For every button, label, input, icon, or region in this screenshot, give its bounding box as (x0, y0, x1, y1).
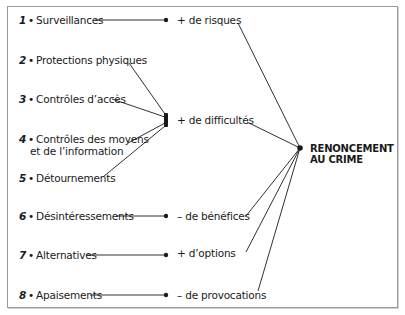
effect-difficultes: + de difficultés (177, 114, 254, 126)
technique-label: Apaisements (36, 289, 102, 301)
goal-label: RENONCEMENT AU CRIME (310, 143, 394, 165)
bullet: • (28, 210, 34, 222)
bullet: • (28, 93, 34, 105)
technique-label: Contrôles des moyens (36, 133, 149, 145)
technique-2: 2•Protections physiques (19, 54, 147, 66)
effect-connector-4 (246, 148, 300, 252)
effect-benefices: – de bénéfices (177, 210, 250, 222)
bullet: • (28, 133, 34, 145)
effect-connector-5 (258, 148, 300, 291)
bullet: • (28, 289, 34, 301)
technique-3: 3•Contrôles d’accès (19, 93, 126, 105)
effect-connector-2 (247, 122, 300, 148)
technique-6: 6•Désintéressements (19, 210, 134, 222)
technique-7: 7•Alternatives (19, 249, 97, 261)
technique-label: Surveillances (36, 14, 103, 26)
technique-label: Contrôles d’accès (36, 93, 126, 105)
technique-4-line2: et de l’information (30, 145, 123, 157)
goal-line-2: AU CRIME (310, 154, 394, 165)
technique-label: Protections physiques (36, 54, 147, 66)
dot-7 (164, 253, 168, 257)
dot-1 (164, 18, 168, 22)
technique-label: et de l’information (30, 145, 123, 157)
technique-number: 8 (19, 289, 26, 301)
dot-6 (164, 214, 168, 218)
bullet: • (28, 172, 34, 184)
technique-label: Désintéressements (36, 210, 134, 222)
bullet: • (28, 249, 34, 261)
bullet: • (28, 14, 34, 26)
technique-label: Alternatives (36, 249, 97, 261)
goal-line-1: RENONCEMENT (310, 143, 394, 154)
technique-number: 2 (19, 54, 26, 66)
technique-number: 1 (19, 14, 26, 26)
junction-bar (164, 113, 168, 127)
technique-number: 7 (19, 249, 26, 261)
technique-1: 1•Surveillances (19, 14, 103, 26)
technique-number: 3 (19, 93, 26, 105)
technique-5: 5•Détournements (19, 172, 115, 184)
effect-provocations: – de provocations (177, 289, 266, 301)
effect-connector-3 (246, 148, 300, 216)
technique-number: 5 (19, 172, 26, 184)
technique-number: 6 (19, 210, 26, 222)
technique-8: 8•Apaisements (19, 289, 102, 301)
effect-risques: + de risques (177, 14, 241, 26)
technique-label: Détournements (36, 172, 115, 184)
effect-connector-1 (238, 23, 300, 148)
effect-options: + d’options (177, 247, 236, 259)
bullet: • (28, 54, 34, 66)
dot-8 (164, 293, 168, 297)
goal-node (297, 145, 303, 151)
technique-4: 4•Contrôles des moyens (19, 133, 149, 145)
technique-number: 4 (19, 133, 26, 145)
